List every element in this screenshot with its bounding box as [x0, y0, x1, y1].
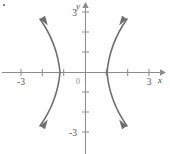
y-tick-label--3: -3: [69, 128, 77, 138]
coordinate-plot: x y -3 3 3 -3 0: [0, 0, 170, 154]
x-axis-label: x: [157, 75, 162, 85]
hyperbola-figure: x y -3 3 3 -3 0: [0, 0, 170, 154]
x-tick-label--3: -3: [17, 77, 25, 87]
hyperbola-right-branch-upper: [107, 19, 127, 73]
x-tick-label-3: 3: [147, 77, 152, 87]
origin-label: 0: [76, 77, 80, 86]
y-tick-label-3: 3: [72, 8, 77, 18]
hyperbola-left-branch-upper: [40, 19, 60, 73]
hyperbola-right-branch-lower: [107, 73, 127, 127]
hyperbola-left-branch-lower: [40, 73, 60, 127]
y-axis-arrow-icon: [82, 2, 88, 8]
corner-mark-icon: [3, 4, 5, 6]
